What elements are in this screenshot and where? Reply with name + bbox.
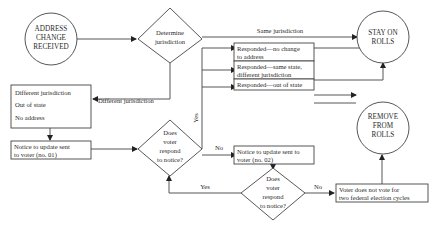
node-text: different jurisdiction xyxy=(237,71,292,78)
node-notice-01: Notice to update sent to voter (no. 01) xyxy=(11,141,91,159)
node-text: STAY ON xyxy=(368,29,398,37)
node-text: Notice to update sent xyxy=(14,143,70,150)
node-text: Voter does not vote for xyxy=(339,186,400,193)
node-text: voter xyxy=(163,138,177,145)
node-responded-same-state: Responded—same state, different jurisdic… xyxy=(234,61,314,79)
node-text: ROLLS xyxy=(372,131,395,139)
node-reasons: Different jurisdiction Out of state No a… xyxy=(11,85,91,128)
node-address-change-received: ADDRESS CHANGE RECEIVED xyxy=(25,13,77,65)
node-text: to address xyxy=(237,53,264,60)
node-text: FROM xyxy=(373,122,394,130)
node-text: to voter (no. 01) xyxy=(14,151,57,159)
node-text: two federal election cycles xyxy=(339,194,410,201)
node-text: Responded—out of state xyxy=(237,81,302,88)
connectors xyxy=(50,37,383,193)
flowchart-canvas: ADDRESS CHANGE RECEIVED Determine jurisd… xyxy=(0,0,434,228)
node-text: ADDRESS xyxy=(35,25,68,33)
node-does-voter-respond-2: Does voter respond to notice? xyxy=(241,168,305,220)
node-text: Responded—same state, xyxy=(237,63,302,70)
node-text: Does xyxy=(163,129,177,136)
node-text: No address xyxy=(15,114,45,121)
node-determine-jurisdiction: Determine jurisdiction xyxy=(138,8,202,63)
node-text: to notice? xyxy=(260,202,286,209)
node-text: respond xyxy=(263,193,285,200)
label-no-2: No xyxy=(314,183,323,190)
label-yes-1: Yes xyxy=(192,113,199,123)
node-text: Different jurisdiction xyxy=(15,89,71,96)
node-text: voter (no. 02) xyxy=(237,156,273,164)
label-no-1: No xyxy=(215,144,224,151)
node-text: Notice to update sent to xyxy=(237,148,300,155)
node-text: to notice? xyxy=(157,156,183,163)
node-text: Out of state xyxy=(15,101,46,108)
node-notice-02: Notice to update sent to voter (no. 02) xyxy=(234,146,314,164)
node-remove-from-rolls: REMOVE FROM ROLLS xyxy=(357,102,409,154)
node-text: ROLLS xyxy=(372,38,395,46)
node-voter-does-not-vote: Voter does not vote for two federal elec… xyxy=(336,184,428,202)
node-text: Does xyxy=(266,175,280,182)
node-text: jurisdiction xyxy=(154,38,186,45)
node-text: Responded—no change xyxy=(237,45,300,52)
label-different-jurisdiction: Different jurisdiction xyxy=(98,97,154,104)
node-does-voter-respond-1: Does voter respond to notice? xyxy=(138,120,202,176)
edge-different-jurisdiction xyxy=(93,63,170,99)
node-stay-on-rolls: STAY ON ROLLS xyxy=(357,11,409,63)
node-text: Determine xyxy=(156,29,184,36)
node-text: RECEIVED xyxy=(33,43,69,51)
label-same-jurisdiction: Same jurisdiction xyxy=(257,27,304,34)
label-yes-2: Yes xyxy=(200,183,210,190)
node-text: REMOVE xyxy=(368,113,399,121)
node-responded-no-change: Responded—no change to address xyxy=(234,43,314,61)
edge-yes-to-no-change xyxy=(202,48,236,149)
node-text: voter xyxy=(266,184,280,191)
node-text: CHANGE xyxy=(36,34,67,42)
node-text: respond xyxy=(160,147,182,154)
node-responded-out-of-state: Responded—out of state xyxy=(234,79,314,90)
